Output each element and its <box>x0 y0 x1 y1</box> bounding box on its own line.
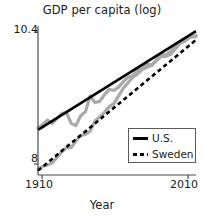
y-tick-label-bottom: 8 <box>31 152 38 165</box>
legend: U.S. Sweden <box>128 128 196 163</box>
legend-label-sweden: Sweden <box>152 149 194 160</box>
x-axis-label: Year <box>0 198 204 212</box>
series-u-s- <box>38 31 196 130</box>
legend-line-dashed-icon <box>133 149 148 159</box>
legend-line-solid-icon <box>133 133 148 143</box>
legend-item-sweden: Sweden <box>129 146 195 162</box>
chart-figure: GDP per capita (log) 10.4 8 1910 2010 Ye… <box>0 0 204 221</box>
legend-label-us: U.S. <box>152 133 173 144</box>
legend-item-us: U.S. <box>129 130 195 146</box>
x-tick-label-right: 2010 <box>170 178 198 191</box>
y-tick-label-top: 10.4 <box>14 23 39 36</box>
x-tick-label-left: 1910 <box>25 178 53 191</box>
